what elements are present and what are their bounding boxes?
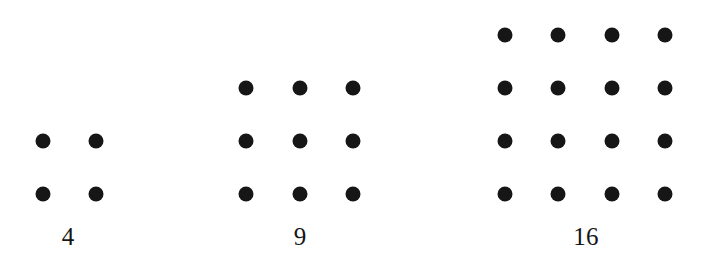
square-numbers-figure: 4916	[0, 0, 715, 263]
dot	[658, 187, 673, 202]
dot-array-label-square-4x4: 16	[573, 224, 598, 249]
dot	[605, 134, 620, 149]
dot	[658, 81, 673, 96]
dot	[658, 134, 673, 149]
dot-array-square-4x4: 16	[0, 0, 715, 263]
dot	[498, 134, 513, 149]
dot	[498, 81, 513, 96]
dot	[551, 187, 566, 202]
dot	[605, 187, 620, 202]
dot	[605, 28, 620, 43]
dot	[605, 81, 620, 96]
dot	[551, 28, 566, 43]
dot	[551, 81, 566, 96]
dot	[551, 134, 566, 149]
dot	[498, 187, 513, 202]
dot	[498, 28, 513, 43]
dot	[658, 28, 673, 43]
